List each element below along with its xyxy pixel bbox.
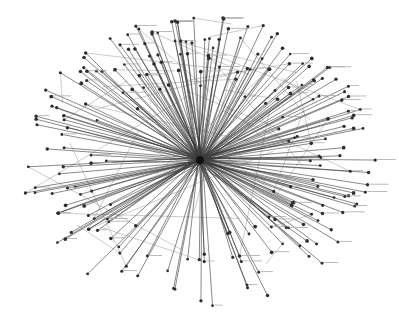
leaf-node (342, 125, 345, 128)
leaf-node (289, 92, 293, 96)
leaf-node (326, 66, 329, 69)
leaf-node (62, 165, 65, 168)
leaf-node (318, 154, 321, 157)
leaf-node (64, 203, 68, 207)
node-label (292, 53, 309, 54)
node-label (241, 255, 260, 256)
node-label (210, 55, 227, 56)
node-label (273, 226, 285, 227)
leaf-node (281, 242, 284, 245)
node-label (89, 70, 108, 71)
leaf-node (288, 62, 292, 66)
leaf-node (63, 237, 67, 241)
leaf-node (326, 117, 330, 121)
node-label (149, 73, 165, 74)
leaf-node (261, 57, 264, 60)
leaf-node (90, 154, 93, 157)
leaf-node (246, 25, 249, 28)
node-label (154, 31, 172, 32)
node-label (93, 154, 111, 155)
leaf-node (311, 178, 315, 182)
leaf-node (35, 123, 38, 126)
edge (120, 160, 200, 253)
leaf-node (130, 88, 134, 92)
leaf-node (63, 118, 66, 121)
node-label (60, 212, 71, 213)
cross-edge (209, 26, 263, 37)
edge (36, 116, 202, 159)
node-label (293, 186, 308, 187)
node-label (64, 133, 77, 134)
node-label (203, 71, 221, 72)
leaf-node (158, 88, 161, 91)
leaf-node (364, 191, 367, 194)
node-label (249, 68, 264, 69)
leaf-node (66, 126, 69, 129)
leaf-node (146, 255, 149, 258)
leaf-node (79, 70, 83, 74)
leaf-node (217, 38, 220, 41)
node-label (362, 109, 372, 110)
leaf-node (266, 294, 269, 297)
leaf-node (234, 77, 237, 80)
leaf-node (113, 68, 117, 72)
leaf-node (106, 218, 109, 221)
leaf-node (85, 70, 89, 74)
leaf-node (85, 79, 88, 82)
leaf-node (160, 60, 164, 64)
node-label (111, 221, 130, 222)
node-label (367, 191, 387, 192)
leaf-node (353, 205, 356, 208)
leaf-node (82, 66, 85, 69)
node-label (249, 284, 257, 285)
leaf-node (34, 186, 37, 189)
node-label (138, 25, 157, 26)
leaf-node (352, 191, 356, 195)
leaf-node (318, 95, 321, 98)
leaf-node (309, 159, 312, 162)
leaf-node (281, 46, 285, 50)
leaf-node (51, 192, 54, 195)
leaf-node (276, 98, 280, 102)
leaf-node (143, 42, 146, 45)
leaf-node (321, 204, 324, 207)
node-label (38, 115, 49, 116)
leaf-node (333, 196, 336, 199)
leaf-node (82, 204, 86, 208)
edge (201, 158, 316, 245)
leaf-node (321, 262, 324, 265)
node-label (93, 162, 113, 163)
leaf-node (208, 37, 211, 40)
leaf-node (287, 227, 290, 230)
node-label (291, 227, 309, 228)
node-label (177, 20, 193, 21)
leaf-node (267, 216, 270, 219)
leaf-node (84, 102, 87, 105)
leaf-node (270, 36, 273, 39)
node-label (304, 84, 314, 85)
leaf-node (272, 190, 275, 193)
leaf-node (218, 66, 221, 69)
leaf-node (257, 271, 260, 274)
node-label (113, 237, 126, 238)
leaf-node (301, 84, 304, 87)
leaf-node (315, 243, 318, 246)
leaf-node (239, 36, 242, 39)
leaf-node (55, 106, 58, 109)
node-label (357, 205, 367, 206)
leaf-node (63, 146, 66, 149)
leaf-node (150, 30, 154, 34)
leaf-node (240, 260, 243, 263)
leaf-node (310, 57, 314, 61)
leaf-node (199, 84, 202, 87)
leaf-node (270, 225, 273, 228)
node-label (285, 116, 301, 117)
leaf-node (142, 86, 145, 89)
leaf-node (264, 102, 267, 105)
leaf-node (274, 89, 277, 92)
leaf-node (305, 239, 309, 243)
leaf-node (79, 193, 82, 196)
leaf-node (60, 133, 63, 136)
leaf-node (289, 53, 292, 56)
node-label (130, 34, 143, 35)
